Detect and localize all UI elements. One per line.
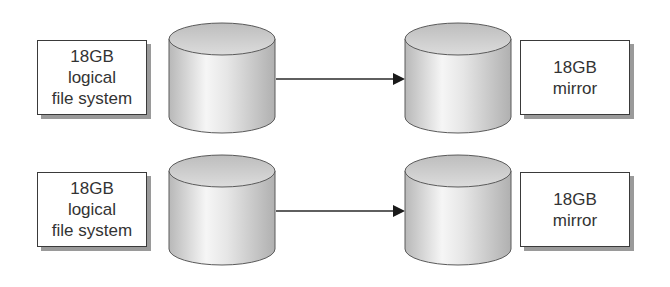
box-label-line: mirror	[553, 78, 597, 99]
disk-cylinder-icon	[167, 21, 277, 135]
box-label-line: 18GB	[70, 178, 113, 199]
arrow-right-icon	[276, 72, 406, 86]
disk-cylinder-icon	[167, 153, 277, 267]
box-label-line: 18GB	[553, 57, 596, 78]
box-label-line: 18GB	[70, 46, 113, 67]
disk-cylinder-icon	[403, 21, 513, 135]
box-label-line: logical	[68, 67, 116, 88]
box-label-line: mirror	[553, 210, 597, 231]
box-label-line: 18GB	[553, 189, 596, 210]
mirror-row-2: 18GB logical file system 18GB mirror	[0, 150, 670, 285]
mirror-box: 18GB mirror	[520, 40, 630, 115]
box-label-line: logical	[68, 199, 116, 220]
logical-file-system-box: 18GB logical file system	[37, 172, 147, 247]
arrow-right-icon	[276, 204, 406, 218]
mirror-box: 18GB mirror	[520, 172, 630, 247]
logical-file-system-box: 18GB logical file system	[37, 40, 147, 115]
mirror-row-1: 18GB logical file system 18GB mirror	[0, 18, 670, 153]
disk-cylinder-icon	[403, 153, 513, 267]
box-label-line: file system	[52, 88, 132, 109]
box-label-line: file system	[52, 220, 132, 241]
